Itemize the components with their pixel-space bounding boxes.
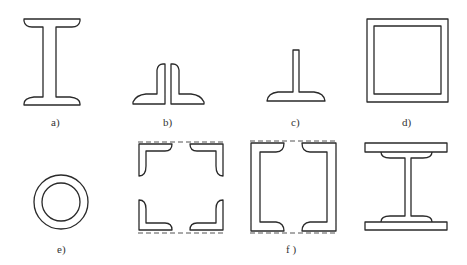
- panel-c-t-section: c): [267, 50, 325, 129]
- panel-f-plated-i-beam: [365, 143, 447, 230]
- steel-sections-diagram: a) b) c) d) e): [0, 0, 467, 265]
- panel-a-i-beam: a): [24, 19, 80, 129]
- channel-left: [251, 143, 284, 231]
- channel-right: [302, 143, 336, 231]
- panel-f-four-angles: [138, 142, 224, 233]
- label-f: f ): [286, 243, 296, 256]
- angle-top-left: [139, 144, 172, 176]
- i-beam-web-and-flanges: [381, 152, 432, 222]
- panel-b-double-angle: b): [133, 64, 204, 129]
- bottom-cover-plate: [365, 222, 447, 230]
- panel-f-two-channels: f ): [250, 141, 337, 256]
- label-e: e): [57, 243, 66, 256]
- label-c: c): [291, 116, 300, 129]
- top-cover-plate: [365, 143, 447, 152]
- box-outer-wall: [367, 19, 448, 102]
- t-section-shape: [267, 50, 325, 101]
- i-beam-section-shape: [24, 19, 80, 105]
- right-angle-shape: [171, 64, 204, 104]
- left-angle-shape: [133, 64, 165, 104]
- box-inner-wall: [374, 26, 441, 94]
- label-b: b): [163, 116, 173, 129]
- panel-e-circular-tube: e): [34, 175, 88, 256]
- angle-bottom-right: [190, 200, 223, 230]
- label-d: d): [402, 116, 412, 129]
- angle-bottom-left: [139, 200, 172, 230]
- panel-d-box-section: d): [367, 19, 448, 129]
- label-a: a): [51, 116, 60, 129]
- tube-inner-circle: [42, 183, 80, 221]
- angle-top-right: [190, 144, 223, 176]
